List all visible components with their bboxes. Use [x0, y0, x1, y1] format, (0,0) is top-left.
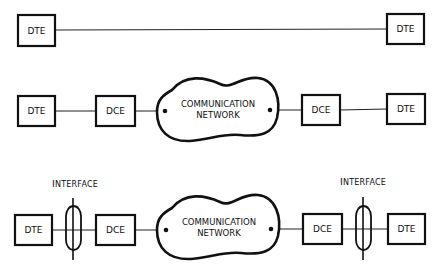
interface-label-left: INTERFACE	[52, 178, 98, 189]
dte-box-row1-left: DTE	[18, 15, 55, 46]
dte-label: DTE	[396, 24, 414, 34]
dce-label: DCE	[312, 105, 331, 115]
dce-box-row3-left: DCE	[96, 215, 135, 245]
dte-box-row2-left: DTE	[18, 96, 55, 126]
connection-dot-right	[268, 108, 273, 113]
dte-dce-network-diagram: DTE DTE DTE DCE COMMUNICATION NETWORK	[0, 0, 438, 267]
communication-network-cloud-row3: COMMUNICATION NETWORK	[157, 195, 279, 259]
dce-box-row3-right: DCE	[303, 214, 342, 244]
link-dce-dte-right	[340, 109, 387, 110]
dce-box-row2-left: DCE	[96, 96, 135, 126]
dte-label: DTE	[27, 106, 45, 116]
communication-network-cloud-row2: COMMUNICATION NETWORK	[157, 78, 278, 141]
interface-label-right: INTERFACE	[340, 176, 386, 187]
interface-marker-right: INTERFACE	[340, 176, 386, 260]
dce-label: DCE	[106, 106, 125, 116]
network-label-line2: NETWORK	[196, 110, 240, 120]
dce-label: DCE	[313, 224, 332, 234]
dte-label: DTE	[397, 104, 415, 114]
row-via-network: DTE DCE COMMUNICATION NETWORK DCE DTE	[18, 78, 425, 141]
network-label-line1: COMMUNICATION	[181, 99, 255, 109]
connection-dot-right	[269, 227, 274, 232]
dte-box-row1-right: DTE	[387, 14, 424, 44]
network-label-line2: NETWORK	[197, 228, 241, 238]
dce-box-row2-right: DCE	[302, 95, 340, 125]
dte-box-row3-left: DTE	[15, 215, 52, 245]
dte-box-row2-right: DTE	[387, 94, 425, 124]
dce-label: DCE	[106, 225, 125, 235]
connection-dot-left	[163, 109, 168, 114]
dte-label: DTE	[397, 224, 415, 234]
network-label-line1: COMMUNICATION	[182, 217, 256, 227]
row-direct-connection: DTE DTE	[18, 14, 424, 46]
dte-label: DTE	[27, 26, 45, 36]
interface-marker-left: INTERFACE	[52, 178, 98, 260]
dte-label: DTE	[24, 225, 42, 235]
connection-dot-left	[164, 228, 169, 233]
direct-link	[55, 29, 387, 30]
row-via-network-with-interfaces: DTE INTERFACE DCE COMMUNICATION NETWORK …	[15, 176, 425, 260]
dte-box-row3-right: DTE	[388, 214, 425, 244]
